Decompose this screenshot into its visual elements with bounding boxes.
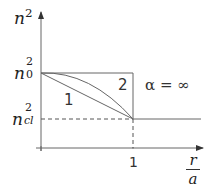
y-axis-label: n2: [14, 8, 33, 27]
n0-sub: 0: [26, 69, 33, 80]
x1-dot: [132, 147, 133, 148]
curve-2-label: 2: [118, 78, 128, 93]
refractive-index-profile-diagram: [0, 0, 209, 188]
alpha-infinity-annotation: α = ∞: [145, 78, 190, 93]
n0-base: n: [14, 63, 25, 83]
ncl-scripts: 2cl: [23, 108, 36, 125]
y-tick-ncl-squared: n2cl: [12, 108, 36, 128]
ncl-base: n: [12, 109, 23, 129]
y-axis-label-sup: 2: [25, 6, 33, 20]
ncl-sub: cl: [24, 115, 34, 126]
n0-scripts: 20: [25, 62, 34, 79]
x-axis-label-numerator: r: [186, 152, 200, 168]
ncl-sup: 2: [25, 102, 32, 113]
x-axis-label: r a: [186, 152, 200, 187]
y-tick-n0-squared: n20: [14, 62, 34, 82]
curve-1-label: 1: [64, 93, 74, 108]
y-axis-label-base: n: [14, 8, 25, 28]
x-tick-1-label: 1: [129, 155, 138, 169]
n0-sup: 2: [26, 56, 33, 67]
x-axis-label-denominator: a: [186, 171, 200, 187]
